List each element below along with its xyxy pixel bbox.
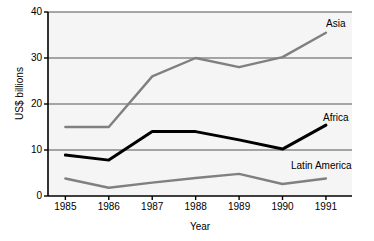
series-label-latin-america: Latin America (291, 161, 352, 171)
x-tick-label: 1988 (176, 202, 216, 212)
x-tick-label: 1985 (45, 202, 85, 212)
x-axis-tick-labels: 1985198619871988198919901991 (0, 0, 374, 241)
series-label-africa: Africa (323, 113, 349, 123)
x-tick-label: 1987 (132, 202, 172, 212)
series-label-asia: Asia (326, 19, 345, 29)
x-tick-label: 1986 (89, 202, 129, 212)
line-chart: 010203040 1985198619871988198919901991 A… (0, 0, 374, 241)
x-tick-label: 1989 (219, 202, 259, 212)
x-axis-title: Year (48, 221, 352, 232)
y-axis-title: US$ billions (14, 24, 25, 164)
x-tick-label: 1991 (306, 202, 346, 212)
x-tick-label: 1990 (263, 202, 303, 212)
